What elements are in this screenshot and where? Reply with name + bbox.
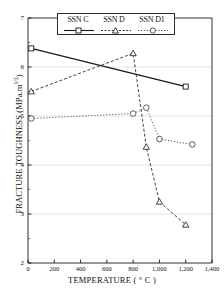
legend-label-ssn-c: SSN C xyxy=(67,16,88,24)
y-tick-label: 2 xyxy=(12,260,24,267)
legend-keys-row xyxy=(58,25,174,36)
y-tick-label: 7 xyxy=(12,15,24,22)
y-axis-title-exponent: 1/2 xyxy=(13,77,19,84)
legend-key-square-solid-icon xyxy=(63,25,95,36)
data-point-ssn-d1 xyxy=(143,105,149,111)
x-tick-label: 1,400 xyxy=(205,266,220,273)
chart-legend: SSN C SSN D SSN D1 xyxy=(57,13,175,35)
legend-key-circle-dotted-icon xyxy=(137,25,169,36)
x-tick-label: 200 xyxy=(49,266,59,273)
x-axis-title: TEMPERATURE ( ° C ) xyxy=(0,276,224,285)
y-axis-title-suffix: ) xyxy=(14,74,24,77)
x-tick-label: 600 xyxy=(102,266,112,273)
y-axis-title: FRACTURE TOUGHNESS (MPa.m1/2) xyxy=(12,64,24,224)
x-tick-label: 1,000 xyxy=(152,266,167,273)
legend-label-ssn-d: SSN D xyxy=(103,16,124,24)
x-tick-label: 0 xyxy=(26,266,29,273)
data-point-ssn-d1 xyxy=(157,136,163,142)
legend-labels-row: SSN C SSN D SSN D1 xyxy=(58,14,174,25)
series-line-ssn-d1 xyxy=(31,108,192,145)
data-point-ssn-d xyxy=(156,199,162,205)
data-point-ssn-d1 xyxy=(28,116,34,122)
chart-plot-area xyxy=(0,0,224,291)
data-point-ssn-d xyxy=(130,50,136,56)
y-axis-title-text: FRACTURE TOUGHNESS (MPa.m xyxy=(14,85,24,214)
legend-label-ssn-d1: SSN D1 xyxy=(139,16,164,24)
data-point-ssn-d1 xyxy=(189,142,195,148)
data-point-ssn-c xyxy=(183,84,188,89)
legend-key-triangle-dashed-icon xyxy=(100,25,132,36)
data-point-ssn-c xyxy=(29,46,34,51)
x-tick-label: 800 xyxy=(128,266,138,273)
x-tick-label: 1,200 xyxy=(178,266,193,273)
series-line-ssn-c xyxy=(31,48,185,86)
data-point-ssn-d1 xyxy=(130,111,136,117)
fracture-toughness-chart: SSN C SSN D SSN D1 02004006008001,0001,2… xyxy=(0,0,224,291)
data-point-ssn-d xyxy=(143,144,149,150)
x-tick-label: 400 xyxy=(76,266,86,273)
